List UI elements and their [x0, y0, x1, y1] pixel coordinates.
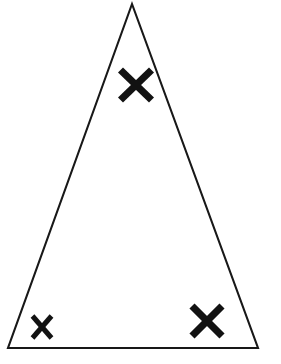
- apex-angle-mark: [121, 70, 152, 100]
- triangle-figure-svg: [0, 0, 281, 364]
- bottom-right-angle-mark: [192, 306, 222, 336]
- bottom-left-angle-mark: [33, 316, 52, 338]
- triangle-outline: [8, 4, 258, 348]
- figure-canvas: Isosceles triangle with three angle mark…: [0, 0, 281, 364]
